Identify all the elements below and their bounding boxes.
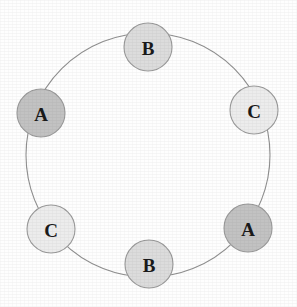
node-label-right-lower-a: A <box>241 219 255 240</box>
graph-node-top-b[interactable]: B <box>124 23 172 71</box>
graph-node-bottom-b[interactable]: B <box>125 240 173 288</box>
cycle-diagram-svg: B C A B C A <box>0 0 297 307</box>
node-label-top-b: B <box>142 38 155 59</box>
cycle-diagram-canvas: B C A B C A <box>0 0 297 307</box>
node-label-left-upper-a: A <box>34 104 48 125</box>
node-label-left-lower-c: C <box>44 220 58 241</box>
graph-node-right-upper-c[interactable]: C <box>230 86 278 134</box>
node-group: B C A B C A <box>17 23 278 288</box>
node-label-bottom-b: B <box>143 255 156 276</box>
graph-node-right-lower-a[interactable]: A <box>224 204 272 252</box>
node-label-right-upper-c: C <box>247 101 261 122</box>
graph-node-left-upper-a[interactable]: A <box>17 89 65 137</box>
graph-node-left-lower-c[interactable]: C <box>27 205 75 253</box>
